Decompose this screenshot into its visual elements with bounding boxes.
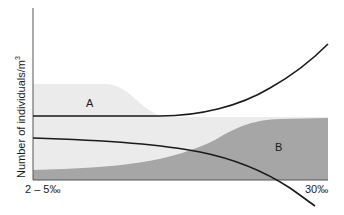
region-a-label: A	[86, 97, 94, 109]
y-axis-label-sup: 3	[14, 56, 21, 60]
region-b-label: B	[275, 141, 282, 153]
y-axis-label: Number of individuals/m3	[14, 56, 27, 178]
x-tick-right: 30‰	[305, 183, 328, 195]
x-tick-left: 2 – 5‰	[25, 183, 60, 195]
salinity-diagram: A B 2 – 5‰ 30‰ Number of individuals/m3	[0, 0, 344, 215]
y-axis-label-text: Number of individuals/m	[15, 60, 27, 178]
